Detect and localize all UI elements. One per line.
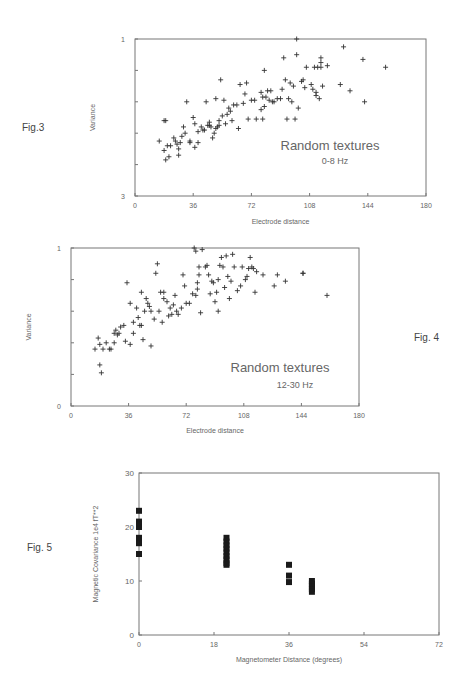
data-point xyxy=(280,87,285,92)
data-point xyxy=(348,88,353,93)
data-point xyxy=(123,339,128,344)
data-point xyxy=(383,65,388,70)
data-point xyxy=(310,87,315,92)
data-point xyxy=(278,96,283,101)
fig3-scatter-chart: 0367210814418031Electrode distanceVarian… xyxy=(0,0,471,235)
data-point xyxy=(196,129,201,134)
data-point xyxy=(165,299,170,304)
data-point xyxy=(220,113,225,118)
data-point xyxy=(314,93,319,98)
data-point xyxy=(262,68,267,73)
data-point xyxy=(128,342,133,347)
data-point xyxy=(171,302,176,307)
chart-annotation: Random textures xyxy=(231,360,330,375)
data-point xyxy=(214,290,219,295)
data-point xyxy=(238,283,243,288)
data-point xyxy=(99,370,104,375)
data-point xyxy=(216,277,221,282)
data-point xyxy=(296,106,301,111)
data-point xyxy=(136,524,142,530)
data-point xyxy=(235,288,240,293)
data-point xyxy=(286,562,292,568)
y-tick-label: 0 xyxy=(57,403,61,410)
data-point xyxy=(253,290,258,295)
data-point xyxy=(191,115,196,120)
data-point xyxy=(192,121,197,126)
data-point xyxy=(268,88,273,93)
y-tick-label: 1 xyxy=(57,245,61,252)
data-point xyxy=(131,331,136,336)
data-point xyxy=(318,60,323,65)
data-point xyxy=(183,131,188,136)
x-tick-label: 72 xyxy=(435,641,443,648)
data-point xyxy=(318,55,323,60)
data-point xyxy=(301,271,306,276)
data-point xyxy=(304,65,309,70)
data-point xyxy=(338,82,343,87)
data-point xyxy=(153,271,158,276)
y-tick-label: 1 xyxy=(121,36,125,43)
data-point xyxy=(160,320,165,325)
data-point xyxy=(234,102,239,107)
data-point xyxy=(181,124,186,129)
data-point xyxy=(289,99,294,104)
data-point xyxy=(259,90,264,95)
data-point xyxy=(179,306,184,311)
data-point xyxy=(141,337,146,342)
y-axis-label: Variance xyxy=(89,104,96,131)
chart-annotation: Random textures xyxy=(281,138,380,153)
data-point xyxy=(187,301,192,306)
x-tick-label: 0 xyxy=(133,202,137,209)
data-point xyxy=(309,82,314,87)
data-point xyxy=(162,148,167,153)
data-point xyxy=(246,117,251,122)
data-point xyxy=(221,98,226,103)
chart-annotation: 12-30 Hz xyxy=(277,380,314,390)
y-tick-label: 0 xyxy=(130,631,135,640)
data-point xyxy=(134,306,139,311)
data-point xyxy=(216,309,221,314)
data-point xyxy=(213,96,218,101)
data-point xyxy=(317,96,322,101)
x-tick-label: 18 xyxy=(210,641,218,648)
data-point xyxy=(294,37,299,42)
data-point xyxy=(223,121,228,126)
data-point xyxy=(284,117,289,122)
data-point xyxy=(181,272,186,277)
x-tick-label: 108 xyxy=(304,202,316,209)
data-point xyxy=(128,301,133,306)
data-point xyxy=(275,272,280,277)
data-point xyxy=(262,104,267,109)
data-point xyxy=(176,146,181,151)
data-point xyxy=(241,101,246,106)
data-point xyxy=(168,143,173,148)
data-point xyxy=(101,347,106,352)
x-axis-label: Electrode distance xyxy=(252,218,310,225)
x-tick-label: 72 xyxy=(248,202,256,209)
data-point xyxy=(286,96,291,101)
x-tick-label: 180 xyxy=(420,202,432,209)
x-axis-label: Magnetometer Distance (degrees) xyxy=(236,656,342,664)
data-point xyxy=(283,279,288,284)
x-tick-label: 72 xyxy=(182,412,190,419)
data-point xyxy=(208,291,213,296)
data-point xyxy=(238,82,243,87)
data-point xyxy=(320,84,325,89)
data-point xyxy=(248,255,253,260)
y-tick-label: 30 xyxy=(125,469,134,478)
data-point xyxy=(219,255,224,260)
data-point xyxy=(155,261,160,266)
data-point xyxy=(259,107,264,112)
data-point xyxy=(136,315,141,320)
y-axis-label: Variance xyxy=(25,313,32,340)
data-point xyxy=(341,44,346,49)
data-point xyxy=(213,299,218,304)
data-point xyxy=(218,77,223,82)
data-point xyxy=(225,274,230,279)
data-point xyxy=(136,508,142,514)
x-tick-label: 108 xyxy=(238,412,250,419)
data-point xyxy=(325,63,330,68)
data-point xyxy=(224,562,230,568)
x-tick-label: 36 xyxy=(285,641,293,648)
data-point xyxy=(195,287,200,292)
